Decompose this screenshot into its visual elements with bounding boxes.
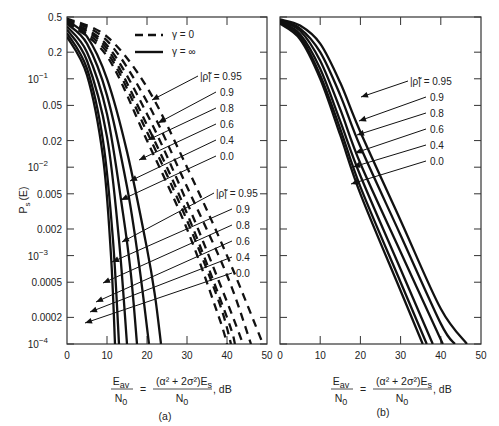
x-tick-label: 0 [277,350,283,361]
y-tick-label: 0.05 [43,100,63,111]
legend-solid-label: γ = ∞ [172,46,196,57]
x-tick-label: 10 [315,350,327,361]
y-tick-label: 0.005 [37,189,62,200]
annotation-arrow [357,113,426,135]
y-tick-label: 0.5 [48,12,62,23]
y-axis-tick-labels: 0.50.210−10.050.0210−20.0050.00210−30.00… [28,12,63,350]
rho-label: 0.8 [220,103,234,114]
y-tick-label: 10−1 [28,71,49,85]
arrow-head-icon [359,116,367,122]
x-tick-label: 20 [355,350,367,361]
y-tick-label: 0.02 [43,136,63,147]
y-tick-label: 10−3 [28,248,49,262]
rho-label: 0.6 [220,119,234,130]
rho-label: 0.9 [220,87,234,98]
y-tick-label: 0.0002 [31,312,62,323]
rho-label: 0.6 [430,124,444,135]
svg-text:Eav: Eav [113,375,130,390]
x-tick-label: 40 [435,350,447,361]
plot-frame [280,17,481,344]
svg-text:, dB: , dB [433,383,452,395]
curve--0-0-95 [67,19,263,344]
annotation-arrow [112,209,232,262]
svg-text:N0: N0 [115,392,128,407]
curve--0-0-6 [67,21,235,344]
rho-label: 0.9 [236,204,250,215]
svg-text:Eav: Eav [333,375,350,390]
rho-label: 0.8 [236,220,250,231]
svg-text:=: = [360,383,366,395]
svg-text:N0: N0 [176,392,189,407]
legend-dashed-label: γ = 0 [172,29,194,40]
x-tick-label: 0 [64,350,70,361]
y-tick-label: 10−2 [28,159,49,173]
arrow-head-icon [90,307,98,313]
curve--0-8 [280,21,443,344]
rho-label: 0.0 [430,156,444,167]
rho-label: 0.0 [220,151,234,162]
panel-a-label: (a) [159,410,172,422]
annotation-arrow [361,81,408,97]
annotation-arrow [130,140,216,181]
rho-label: |ρ̃| = 0.95 [410,76,452,87]
y-tick-label: 0.2 [48,47,62,58]
svg-text:(α² + 2σ²)Es: (α² + 2σ²)Es [156,375,212,390]
y-tick-label: 0.002 [37,224,62,235]
svg-text:(α² + 2σ²)Es: (α² + 2σ²)Es [376,375,432,390]
x-tick-label: 50 [261,350,273,361]
y-tick-label: 10−4 [28,336,49,350]
legend: γ = 0 γ = ∞ [135,29,196,57]
x-tick-label: 40 [221,350,233,361]
rho-label: 0.6 [236,236,250,247]
svg-text:N0: N0 [335,392,348,407]
rho-label: 0.4 [430,140,444,151]
annotation-arrow [103,225,232,283]
x-tick-label: 20 [141,350,153,361]
curve--0-95 [280,19,467,344]
x-axis-caption-b: Eav N0 = (α² + 2σ²)Es N0 , dB (b) [331,375,452,418]
svg-text:N0: N0 [396,392,409,407]
y-axis-title: Ps(E) [17,186,32,213]
annotation-arrow [359,97,426,121]
panel-b-label: (b) [377,406,390,418]
arrow-head-icon [361,92,369,98]
svg-text:, dB: , dB [213,383,232,395]
arrow-head-icon [85,318,93,324]
rho-label: 0.9 [430,92,444,103]
chart-figure: 0.50.210−10.050.0210−20.0050.00210−30.00… [0,0,499,426]
annotation-arrow [139,124,216,160]
rho-label: |ρ̃| = 0.95 [216,188,258,199]
x-axis-tick-labels: 0102030405001020304050 [64,350,487,361]
svg-text:=: = [140,383,146,395]
rho-label: |ρ̃| = 0.95 [200,71,242,82]
annotation-arrow [152,76,198,100]
x-tick-label: 30 [181,350,193,361]
x-tick-label: 30 [395,350,407,361]
annotation-arrow [158,92,216,123]
rho-label: 0.0 [236,268,250,279]
y-tick-label: 0.0005 [31,277,62,288]
panel-b-plot [280,17,481,344]
x-tick-label: 10 [101,350,113,361]
rho-label: 0.4 [236,252,250,263]
rho-label: 0.4 [220,135,234,146]
x-axis-caption-a: Eav N0 = (α² + 2σ²)Es N0 , dB (a) [111,375,232,422]
x-tick-label: 50 [475,350,487,361]
rho-label: 0.8 [430,108,444,119]
